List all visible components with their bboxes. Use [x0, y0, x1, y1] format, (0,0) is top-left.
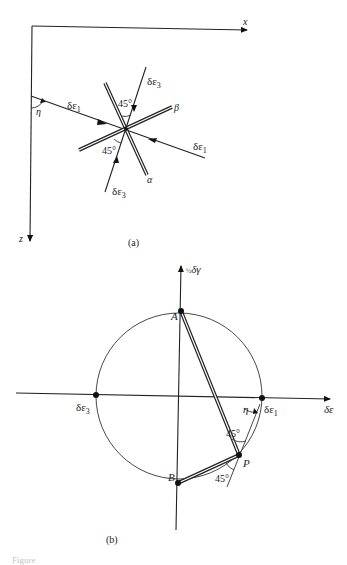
- label-b: B: [168, 471, 175, 483]
- de1-right-label: δε1: [193, 140, 207, 155]
- eta-label-b: η: [243, 403, 248, 415]
- label-de3: δε3: [76, 401, 90, 416]
- figure-a: x z η δε1 δε1 δε3 δε3 α β 45°: [18, 16, 248, 249]
- alpha-label: α: [147, 174, 153, 185]
- angle-bottom-label: 45°: [102, 145, 116, 156]
- label-de1: δε1: [264, 403, 278, 418]
- shear-strain-axis: [176, 266, 181, 530]
- figure-caption-fragment: Figure: [12, 555, 36, 565]
- normal-strain-axis-label: δε: [324, 403, 334, 415]
- point-de1: [259, 395, 265, 401]
- mohr-strain-figure: x z η δε1 δε1 δε3 δε3 α β 45°: [0, 0, 347, 565]
- figure-b: δε ½δγ η 45° 45° A B P: [16, 263, 334, 546]
- z-axis-label: z: [18, 233, 23, 244]
- normal-strain-axis: [16, 393, 330, 399]
- angle-upper-label: 45°: [226, 428, 240, 439]
- x-axis: [32, 26, 247, 30]
- de3-top-label: δε3: [147, 75, 161, 90]
- point-de3: [93, 392, 99, 398]
- eta-label: η: [36, 106, 41, 117]
- point-p: [236, 452, 242, 458]
- z-axis: [30, 26, 32, 241]
- label-a: A: [170, 310, 178, 322]
- point-a: [178, 308, 184, 314]
- center-point: [124, 127, 128, 131]
- tangent-line: [227, 404, 260, 487]
- angle-lower-label: 45°: [215, 473, 229, 484]
- beta-label: β: [173, 102, 179, 113]
- de3-bottom-label: δε3: [112, 185, 126, 200]
- caption-a: (a): [128, 237, 139, 249]
- caption-b: (b): [106, 534, 118, 546]
- angle-top-label: 45°: [118, 98, 132, 109]
- label-p: P: [242, 457, 250, 469]
- shear-strain-axis-label: ½δγ: [186, 263, 201, 275]
- angle-arc-bottom: [114, 139, 121, 143]
- point-b: [175, 480, 181, 486]
- x-axis-label: x: [242, 16, 248, 27]
